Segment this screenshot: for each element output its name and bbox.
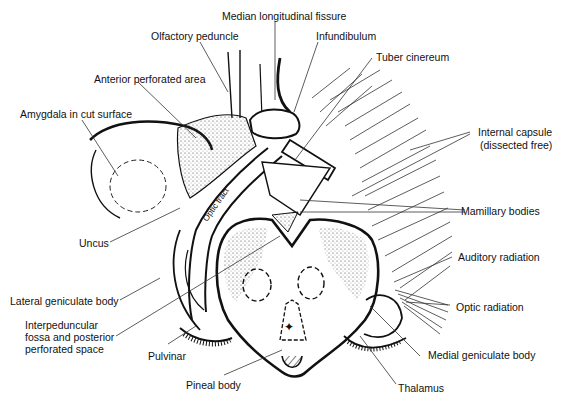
label-internal-capsule: Internal capsule [478,126,552,138]
label-olfactory-peduncle: Olfactory peduncle [151,30,239,42]
label-anterior-perforated-area: Anterior perforated area [94,73,205,85]
label-medial-geniculate-body: Medial geniculate body [428,349,535,361]
optic-radiation-fibers [395,290,448,334]
label-interpeduncular-1: Interpeduncular [25,319,98,331]
label-median-longitudinal-fissure: Median longitudinal fissure [222,10,346,22]
anterior-perforated-area-shape [178,115,257,198]
label-pulvinar: Pulvinar [148,350,186,362]
label-interpeduncular-3: perforated space [25,343,104,355]
label-pineal-body: Pineal body [186,379,241,391]
label-tuber-cinereum: Tuber cinereum [376,51,449,63]
svg-text:✦: ✦ [284,320,294,334]
label-thalamus: Thalamus [398,382,444,394]
label-infundibulum: Infundibulum [316,30,376,42]
optic-tract-label: Optic tract [200,185,231,223]
amygdala-outline [110,160,166,212]
label-interpeduncular-2: fossa and posterior [25,331,114,343]
label-optic-radiation: Optic radiation [456,301,524,313]
label-amygdala: Amygdala in cut surface [20,108,132,120]
label-lateral-geniculate-body: Lateral geniculate body [10,295,119,307]
label-mamillary-bodies: Mamillary bodies [461,205,540,217]
label-uncus: Uncus [79,237,109,249]
label-auditory-radiation: Auditory radiation [458,251,540,263]
anatomy-diagram: Optic tract ✦ [0,0,561,408]
label-internal-capsule-note: (dissected free) [480,139,552,151]
